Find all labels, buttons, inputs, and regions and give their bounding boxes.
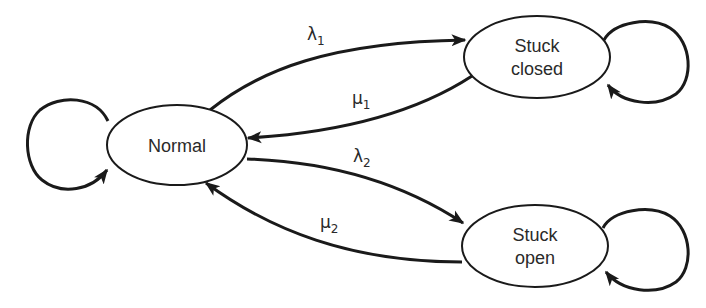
state-stuck-open-shape — [462, 205, 608, 287]
rate-label-mu-1: μ1 — [352, 88, 370, 112]
state-stuck-closed-shape — [464, 16, 610, 98]
state-stuck-open-label-line1: Stuck — [512, 225, 558, 245]
self-loop-stuck-closed — [604, 22, 688, 103]
rate-label-lambda-2: λ2 — [353, 146, 371, 170]
state-stuck-closed-label-line1: Stuck — [514, 36, 560, 56]
rate-label-lambda-1: λ1 — [307, 24, 325, 48]
rate-label-mu-2: μ2 — [320, 212, 338, 236]
state-normal-label: Normal — [148, 136, 206, 156]
state-stuck-closed-label-line2: closed — [511, 59, 563, 79]
state-diagram: Normal Stuck closed Stuck open λ1 μ1 λ2 … — [0, 0, 706, 308]
self-loop-stuck-open — [603, 210, 688, 291]
state-stuck-open-label-line2: open — [515, 248, 555, 268]
state-stuck-open: Stuck open — [462, 205, 608, 287]
edge-normal-to-stuck-open — [247, 159, 463, 223]
state-normal: Normal — [107, 105, 247, 185]
self-loop-normal — [27, 100, 108, 189]
state-stuck-closed: Stuck closed — [464, 16, 610, 98]
